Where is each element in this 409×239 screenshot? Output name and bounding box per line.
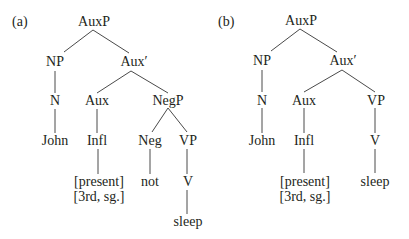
node-feature-present: [present] xyxy=(280,174,330,189)
node-infl: Infl xyxy=(87,133,107,148)
edge-negp-neg xyxy=(152,108,168,132)
node-feature-person-number: [3rd, sg.] xyxy=(280,189,331,204)
edge-negp-vp xyxy=(168,108,187,132)
node-n: N xyxy=(257,93,267,108)
edge-auxp-np xyxy=(271,29,300,51)
node-auxp: AuxP xyxy=(78,14,110,29)
edge-auxp-np xyxy=(64,30,93,52)
node-neg: Neg xyxy=(138,133,161,148)
node-negp: NegP xyxy=(152,93,183,108)
node-vp: VP xyxy=(179,133,197,148)
node-aux: Aux xyxy=(85,93,109,108)
panel-label-b: (b) xyxy=(218,14,235,30)
node-vp: VP xyxy=(367,93,385,108)
node-np: NP xyxy=(253,53,271,68)
tree-a: (a) AuxP NP Aux′ N Aux NegP John Infl Ne… xyxy=(12,14,202,229)
node-feature-person-number: [3rd, sg.] xyxy=(74,189,125,204)
node-v: V xyxy=(183,174,193,189)
node-john: John xyxy=(249,133,275,148)
tree-b: (b) AuxP NP Aux′ N Aux VP John Infl V [p… xyxy=(218,13,389,204)
node-john: John xyxy=(42,133,68,148)
node-auxp: AuxP xyxy=(285,13,317,28)
edge-auxbar-negp xyxy=(131,71,168,93)
syntax-tree-figure: (a) AuxP NP Aux′ N Aux NegP John Infl Ne… xyxy=(0,0,409,239)
node-np: NP xyxy=(46,54,64,69)
node-feature-present: [present] xyxy=(74,174,124,189)
edge-auxbar-aux xyxy=(97,71,131,93)
node-auxbar: Aux′ xyxy=(329,53,356,68)
tree-b-edges xyxy=(262,29,375,173)
node-sleep: sleep xyxy=(361,174,390,189)
node-auxbar: Aux′ xyxy=(120,54,147,69)
edge-auxbar-aux xyxy=(304,70,342,92)
node-infl: Infl xyxy=(294,133,314,148)
node-n: N xyxy=(50,93,60,108)
edge-auxp-auxbar xyxy=(93,30,129,53)
panel-label-a: (a) xyxy=(12,14,28,30)
node-sleep: sleep xyxy=(174,214,203,229)
node-v: V xyxy=(370,133,380,148)
edge-auxp-auxbar xyxy=(300,29,337,52)
edge-auxbar-vp xyxy=(342,70,375,92)
node-aux: Aux xyxy=(292,93,316,108)
node-not: not xyxy=(141,174,159,189)
